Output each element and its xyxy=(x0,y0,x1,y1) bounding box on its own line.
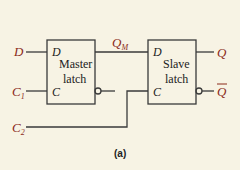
c1-input-label: C1 xyxy=(12,84,25,101)
d-input-label: D xyxy=(13,44,24,59)
master-pin-c: C xyxy=(52,85,61,99)
slave-inverter-bubble xyxy=(196,88,202,94)
c2-input-wire xyxy=(26,91,148,127)
master-title-2: latch xyxy=(63,72,86,86)
c2-input-label: C2 xyxy=(12,120,25,137)
master-title-1: Master xyxy=(59,57,92,71)
slave-title-2: latch xyxy=(165,72,188,86)
slave-pin-c: C xyxy=(153,85,162,99)
master-slave-diagram: D C1 C2 QM Q Q D Master latch C D Slave … xyxy=(0,0,240,170)
qbar-output-label: Q xyxy=(217,84,227,99)
qm-label: QM xyxy=(112,35,129,52)
q-output-label: Q xyxy=(217,45,227,60)
slave-title-1: Slave xyxy=(163,57,190,71)
slave-pin-d: D xyxy=(152,45,162,59)
figure-caption: (a) xyxy=(114,148,126,159)
master-inverter-bubble xyxy=(95,88,101,94)
